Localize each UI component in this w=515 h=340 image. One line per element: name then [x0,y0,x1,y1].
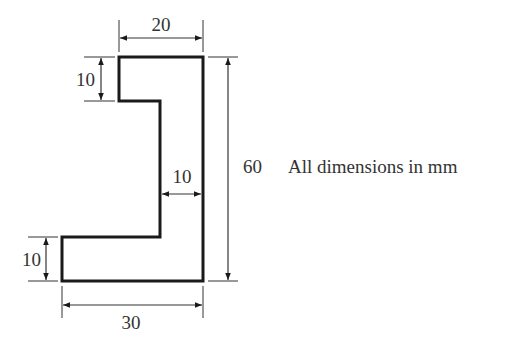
dimension-overall-height: 60 [208,57,262,281]
units-note: All dimensions in mm [288,156,458,177]
dimension-flange-height: 10 [22,237,58,281]
dimension-top-width: 20 [119,14,203,52]
cross-section-diagram: 20 10 10 60 10 30 All dimensions in mm [0,0,515,340]
dimension-notch-height: 10 [76,57,115,101]
overall-height-label: 60 [243,156,262,177]
bottom-width-label: 30 [122,312,141,333]
dimension-bottom-width: 30 [62,286,203,333]
top-width-label: 20 [152,14,171,35]
flange-height-label: 10 [22,249,41,270]
notch-height-label: 10 [76,69,95,90]
web-thickness-label: 10 [173,166,192,187]
dimension-web-thickness: 10 [162,166,201,194]
